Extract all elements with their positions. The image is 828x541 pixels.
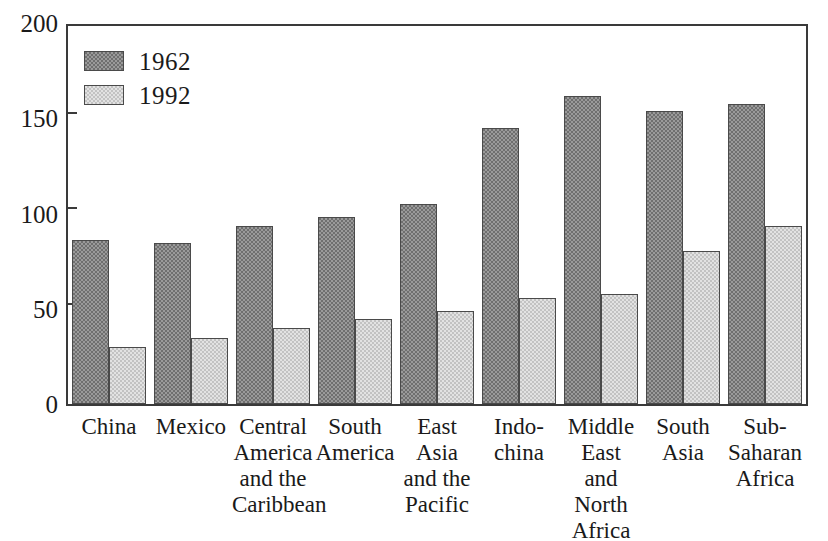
bar-1992-mexico [191,338,228,404]
x-axis-label-line: America [314,440,396,466]
bar-1992-south-asia [683,251,720,404]
x-axis-label-indo-china: Indo-china [478,414,560,466]
x-axis-label-east-asia-and-the-pacific: EastAsiaand thePacific [396,414,478,518]
y-tick-label-0: 0 [46,392,59,417]
x-axis-label-line: Asia [396,440,478,466]
x-axis-label-line: Sub- [724,414,806,440]
x-axis-label-line: Africa [724,466,806,492]
y-axis-labels: 200 150 100 50 0 [0,0,58,541]
bar-1962-middle-east-and-north-africa [564,96,601,404]
bar-1992-sub-saharan-africa [765,226,802,404]
y-tick-label-50: 50 [33,297,58,322]
bar-1992-east-asia-and-the-pacific [437,311,474,404]
x-axis-label-line: Africa [560,518,642,541]
legend-item-1992: 1992 [84,78,191,112]
bar-1992-indo-china [519,298,556,404]
bar-1962-indo-china [482,128,519,404]
bar-1992-central-america-and-the-caribbean [273,328,310,404]
x-axis-label-sub-saharan-africa: Sub-SaharanAfrica [724,414,806,492]
x-axis-label-line: Caribbean [232,492,314,518]
x-axis-label-line: South [642,414,724,440]
x-axis-label-line: and the [396,466,478,492]
y-tick-label-150: 150 [21,106,59,131]
legend-label-1992: 1992 [139,83,191,108]
bar-1962-south-america [318,217,355,404]
x-axis-label-line: china [478,440,560,466]
bar-1962-south-asia [646,111,683,404]
bar-chart: 200 150 100 50 0 1962 1992 ChinaMexicoCe… [0,0,828,541]
x-axis-label-line: and the [232,466,314,492]
legend-label-1962: 1962 [139,49,191,74]
legend: 1962 1992 [84,44,191,112]
legend-swatch-1962 [84,51,124,71]
x-axis-label-south-america: SouthAmerica [314,414,396,466]
x-axis-label-line: Saharan [724,440,806,466]
bar-1992-china [109,347,146,404]
x-axis-label-line: East [396,414,478,440]
x-axis-label-line: East [560,440,642,466]
x-axis-label-line: Central [232,414,314,440]
y-tick-label-200: 200 [21,11,59,36]
x-axis-label-line: Asia [642,440,724,466]
x-axis-label-line: China [68,414,150,440]
x-axis-label-line: Mexico [150,414,232,440]
x-axis-label-line: America [232,440,314,466]
x-axis-labels: ChinaMexicoCentralAmericaand theCaribbea… [68,414,806,539]
bar-1992-middle-east-and-north-africa [601,294,638,404]
x-axis-label-line: Middle [560,414,642,440]
y-tick-label-100: 100 [21,202,59,227]
bar-1962-china [72,240,109,404]
x-axis-label-line: North [560,492,642,518]
x-axis-label-middle-east-and-north-africa: MiddleEastandNorthAfrica [560,414,642,541]
x-axis-label-line: Indo- [478,414,560,440]
x-axis-label-line: South [314,414,396,440]
bar-1962-east-asia-and-the-pacific [400,204,437,404]
bar-1962-mexico [154,243,191,404]
bar-1962-central-america-and-the-caribbean [236,226,273,404]
legend-item-1962: 1962 [84,44,191,78]
x-axis-label-central-america-and-the-caribbean: CentralAmericaand theCaribbean [232,414,314,518]
bar-1992-south-america [355,319,392,404]
x-axis-label-line: Pacific [396,492,478,518]
x-axis-label-china: China [68,414,150,440]
x-axis-label-south-asia: SouthAsia [642,414,724,466]
legend-swatch-1992 [84,85,124,105]
x-axis-label-mexico: Mexico [150,414,232,440]
bar-1962-sub-saharan-africa [728,104,765,405]
x-axis-label-line: and [560,466,642,492]
